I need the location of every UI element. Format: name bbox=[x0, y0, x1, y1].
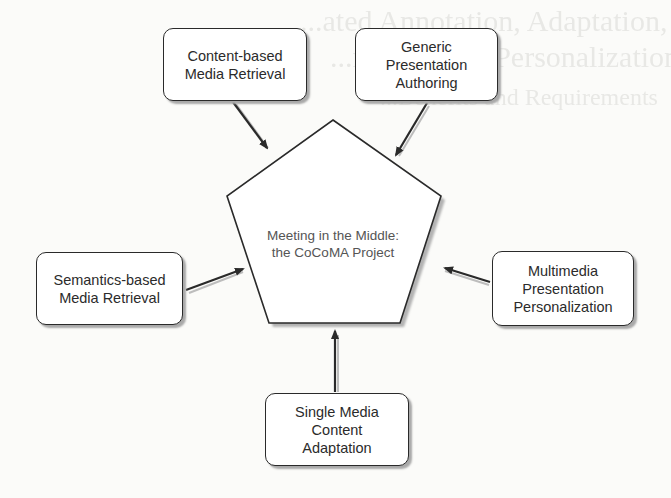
node-label: Single Media Content Adaptation bbox=[295, 403, 379, 457]
arrow-personalization-to-center bbox=[445, 268, 490, 282]
center-pentagon-label: Meeting in the Middle: the CoCoMA Projec… bbox=[237, 227, 429, 261]
node-label: Semantics-based Media Retrieval bbox=[53, 271, 165, 307]
arrow-generic-authoring-to-center bbox=[396, 103, 427, 155]
node-label: Content-based Media Retrieval bbox=[185, 47, 286, 83]
node-content-based-media-retrieval: Content-based Media Retrieval bbox=[163, 28, 307, 101]
center-pentagon bbox=[227, 120, 441, 323]
node-label: Multimedia Presentation Personalization bbox=[513, 262, 612, 316]
node-semantics-based-media-retrieval: Semantics-based Media Retrieval bbox=[36, 252, 183, 325]
node-generic-presentation-authoring: Generic Presentation Authoring bbox=[355, 28, 498, 101]
node-single-media-content-adaptation: Single Media Content Adaptation bbox=[265, 393, 409, 466]
node-label: Generic Presentation Authoring bbox=[386, 38, 467, 92]
node-multimedia-presentation-personalization: Multimedia Presentation Personalization bbox=[492, 251, 634, 326]
arrow-content-based-to-center bbox=[233, 102, 267, 148]
arrow-semantics-based-to-center bbox=[186, 269, 243, 290]
